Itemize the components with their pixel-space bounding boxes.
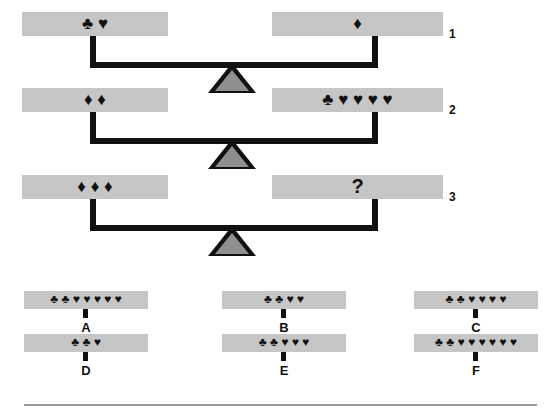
- row-1-right-stem: [372, 36, 378, 64]
- row-1-right-glyphs: ♦: [353, 15, 362, 32]
- option-a-stem: [83, 309, 88, 318]
- option-b-pan[interactable]: ♣ ♣ ♥ ♥: [222, 291, 346, 309]
- option-a-glyphs: ♣ ♣ ♥ ♥ ♥ ♥ ♥: [50, 293, 121, 305]
- option-d-letter: D: [76, 364, 96, 377]
- option-c-pan[interactable]: ♣ ♣ ♥ ♥ ♥ ♥: [414, 291, 538, 309]
- row-3-left-stem: [90, 199, 96, 227]
- bottom-divider: [24, 404, 537, 406]
- option-f-glyphs: ♣ ♣ ♥ ♥ ♥ ♥ ♥ ♥: [435, 336, 517, 348]
- option-a-letter: A: [76, 321, 96, 334]
- row-3-right-pan[interactable]: ?: [272, 175, 443, 199]
- row-1-right-pan[interactable]: ♦: [272, 12, 443, 36]
- row-2-number: 2: [449, 104, 456, 116]
- fulcrum-triangle-fill: [215, 146, 249, 167]
- option-b-glyphs: ♣ ♣ ♥ ♥: [264, 293, 304, 305]
- balance-row-1: ♣ ♥ ♦ 1: [0, 0, 559, 95]
- option-c-stem: [473, 309, 478, 318]
- option-e[interactable]: ♣ ♣ ♥ ♥ ♥ E: [222, 334, 346, 379]
- option-f[interactable]: ♣ ♣ ♥ ♥ ♥ ♥ ♥ ♥ F: [414, 334, 538, 379]
- row-1-left-stem: [90, 36, 96, 64]
- row-1-left-pan[interactable]: ♣ ♥: [22, 12, 168, 36]
- option-e-pan[interactable]: ♣ ♣ ♥ ♥ ♥: [222, 334, 346, 352]
- option-b-letter: B: [274, 321, 294, 334]
- row-2-left-glyphs: ♦ ♦: [84, 91, 106, 108]
- row-3-number: 3: [449, 191, 456, 203]
- option-f-stem: [473, 352, 478, 361]
- option-b[interactable]: ♣ ♣ ♥ ♥ B: [222, 291, 346, 336]
- row-2-right-pan[interactable]: ♣ ♥ ♥ ♥ ♥: [272, 88, 443, 112]
- option-f-letter: F: [466, 364, 486, 377]
- option-d-stem: [83, 352, 88, 361]
- row-2-right-glyphs: ♣ ♥ ♥ ♥ ♥: [322, 91, 392, 108]
- option-b-stem: [281, 309, 286, 318]
- puzzle-canvas: ♣ ♥ ♦ 1 ♦ ♦ ♣ ♥ ♥ ♥ ♥: [0, 0, 559, 417]
- option-a-pan[interactable]: ♣ ♣ ♥ ♥ ♥ ♥ ♥: [24, 291, 148, 309]
- option-a[interactable]: ♣ ♣ ♥ ♥ ♥ ♥ ♥ A: [24, 291, 148, 336]
- option-d-pan[interactable]: ♣ ♣ ♥: [24, 334, 148, 352]
- row-1-left-glyphs: ♣ ♥: [82, 15, 108, 32]
- row-2-left-stem: [90, 112, 96, 140]
- option-c[interactable]: ♣ ♣ ♥ ♥ ♥ ♥ C: [414, 291, 538, 336]
- row-3-left-glyphs: ♦ ♦ ♦: [77, 178, 112, 195]
- row-2-left-pan[interactable]: ♦ ♦: [22, 88, 168, 112]
- option-e-glyphs: ♣ ♣ ♥ ♥ ♥: [259, 336, 309, 348]
- row-3-right-stem: [372, 199, 378, 227]
- option-e-letter: E: [274, 364, 294, 377]
- balance-row-3: ♦ ♦ ♦ ? 3: [0, 175, 559, 270]
- option-d[interactable]: ♣ ♣ ♥ D: [24, 334, 148, 379]
- row-3-left-pan[interactable]: ♦ ♦ ♦: [22, 175, 168, 199]
- option-d-glyphs: ♣ ♣ ♥: [71, 336, 101, 348]
- option-e-stem: [281, 352, 286, 361]
- row-1-number: 1: [449, 28, 456, 40]
- row-3-unknown-glyph: ?: [351, 176, 363, 196]
- option-f-pan[interactable]: ♣ ♣ ♥ ♥ ♥ ♥ ♥ ♥: [414, 334, 538, 352]
- fulcrum-triangle-fill: [215, 233, 249, 254]
- option-c-glyphs: ♣ ♣ ♥ ♥ ♥ ♥: [446, 293, 507, 305]
- balance-row-2: ♦ ♦ ♣ ♥ ♥ ♥ ♥ 2: [0, 88, 559, 183]
- option-c-letter: C: [466, 321, 486, 334]
- row-2-right-stem: [372, 112, 378, 140]
